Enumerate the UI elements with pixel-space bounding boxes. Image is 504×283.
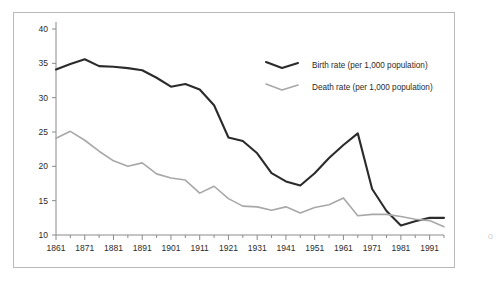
x-tick-label: 1871 xyxy=(75,243,94,253)
x-tick-label: 1971 xyxy=(363,243,382,253)
figure-container: 10152025303540 1861187118811891190119111… xyxy=(0,0,504,283)
x-tick-label: 1861 xyxy=(47,243,66,253)
page-edge-artifact: o xyxy=(488,232,494,241)
x-tick-label: 1891 xyxy=(133,243,152,253)
legend-item-label: Birth rate (per 1,000 population) xyxy=(312,61,428,70)
chart-frame: 10152025303540 1861187118811891190119111… xyxy=(13,12,455,268)
y-tick-label: 35 xyxy=(39,58,49,68)
line-chart: 10152025303540 1861187118811891190119111… xyxy=(14,13,454,267)
x-tick-label: 1901 xyxy=(162,243,181,253)
x-axis: 1861187118811891190119111921193119411951… xyxy=(47,235,444,253)
y-tick-label: 40 xyxy=(39,24,49,34)
series-line xyxy=(56,131,444,226)
x-tick-label: 1961 xyxy=(334,243,353,253)
y-axis: 10152025303540 xyxy=(39,22,56,240)
x-tick-label: 1951 xyxy=(305,243,324,253)
x-tick-label: 1911 xyxy=(191,243,210,253)
y-tick-label: 25 xyxy=(39,127,49,137)
y-tick-label: 10 xyxy=(39,230,49,240)
y-tick-label: 20 xyxy=(39,161,49,171)
x-tick-label: 1921 xyxy=(219,243,238,253)
y-tick-label: 30 xyxy=(39,93,49,103)
legend-item-label: Death rate (per 1,000 population) xyxy=(312,83,433,92)
x-tick-label: 1981 xyxy=(391,243,410,253)
x-tick-label: 1881 xyxy=(104,243,123,253)
legend-swatch xyxy=(266,62,298,68)
x-tick-label: 1941 xyxy=(276,243,295,253)
chart-legend: Birth rate (per 1,000 population)Death r… xyxy=(266,61,433,92)
x-tick-label: 1991 xyxy=(420,243,439,253)
y-tick-label: 15 xyxy=(39,196,49,206)
x-tick-label: 1931 xyxy=(248,243,267,253)
legend-swatch xyxy=(266,84,298,90)
